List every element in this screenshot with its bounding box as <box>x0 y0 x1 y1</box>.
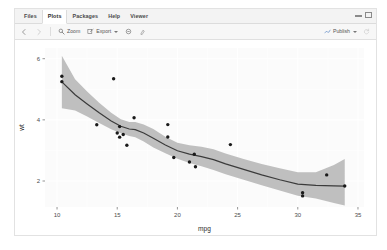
tick-label-y: 6 <box>37 56 41 62</box>
data-point <box>118 125 121 128</box>
tick-label-x: 10 <box>54 212 61 218</box>
data-point <box>116 131 119 134</box>
tab-help[interactable]: Help <box>103 10 125 23</box>
tab-viewer[interactable]: Viewer <box>125 10 153 23</box>
export-label: Export <box>96 29 111 34</box>
toolbar-right-group: Publish <box>324 25 370 38</box>
data-point <box>122 133 125 136</box>
toolbar-separator <box>50 27 51 36</box>
data-point <box>132 116 135 119</box>
data-point <box>112 77 115 80</box>
publish-icon <box>324 28 331 35</box>
data-point <box>60 80 63 83</box>
export-icon <box>87 28 94 35</box>
data-point <box>188 160 191 163</box>
remove-plot-icon <box>125 28 132 35</box>
data-point <box>194 165 197 168</box>
tab-plots[interactable]: Plots <box>42 10 68 24</box>
clear-all-plots-button[interactable] <box>139 25 146 38</box>
window-maximize-icon[interactable] <box>365 12 372 18</box>
data-point <box>118 135 121 138</box>
data-point <box>301 194 304 197</box>
refresh-button[interactable] <box>363 25 370 38</box>
forward-arrow-icon <box>35 28 43 36</box>
forward-arrow-button[interactable] <box>35 25 43 38</box>
tick-label-x: 15 <box>114 212 121 218</box>
x-axis-title: mpg <box>198 225 211 233</box>
data-point <box>166 135 169 138</box>
back-arrow-button[interactable] <box>20 25 28 38</box>
data-point <box>343 184 346 187</box>
tick-label-x: 25 <box>234 212 241 218</box>
data-point <box>193 153 196 156</box>
tick-label-y: 4 <box>37 117 41 123</box>
refresh-icon <box>363 28 370 35</box>
publish-label: Publish <box>333 29 350 34</box>
data-point <box>172 156 175 159</box>
export-button[interactable]: Export <box>87 25 118 38</box>
plots-pane: Files Plots Packages Help Viewer <box>14 8 377 236</box>
chevron-down-icon <box>353 31 357 33</box>
data-point <box>60 75 63 78</box>
chevron-down-icon <box>114 31 118 33</box>
data-point <box>166 123 169 126</box>
publish-button[interactable]: Publish <box>324 25 357 38</box>
window-minimize-icon[interactable] <box>355 14 362 17</box>
data-point <box>325 173 328 176</box>
window-controls <box>355 12 372 18</box>
tick-label-x: 35 <box>355 212 362 218</box>
pane-tabstrip: Files Plots Packages Help Viewer <box>15 9 376 24</box>
remove-plot-button[interactable] <box>125 25 132 38</box>
y-axis-title: wt <box>18 124 25 132</box>
ggplot-scatter-smooth: 101520253035246mpgwt <box>15 40 376 235</box>
plot-canvas: 101520253035246mpgwt <box>15 40 376 235</box>
tab-files[interactable]: Files <box>19 10 42 23</box>
zoom-label: Zoom <box>67 29 80 34</box>
magnifier-icon <box>58 28 65 35</box>
back-arrow-icon <box>20 28 28 36</box>
data-point <box>229 143 232 146</box>
data-point <box>95 123 98 126</box>
plots-toolbar: Zoom Export <box>15 24 376 40</box>
tab-packages[interactable]: Packages <box>67 10 103 23</box>
data-point <box>301 191 304 194</box>
tick-label-x: 30 <box>294 212 301 218</box>
clear-all-plots-icon <box>139 28 146 36</box>
tick-label-y: 2 <box>37 178 41 184</box>
tick-label-x: 20 <box>174 212 181 218</box>
zoom-button[interactable]: Zoom <box>58 25 80 38</box>
data-point <box>125 144 128 147</box>
